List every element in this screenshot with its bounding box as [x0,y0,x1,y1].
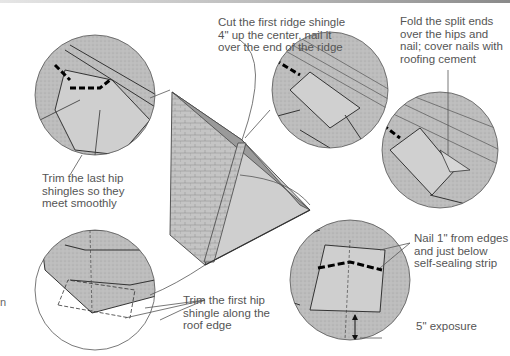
cropped-text-fragment: n [0,296,6,308]
callout-cut-ridge: Cut the first ridge shingle 4" up the ce… [218,16,345,54]
callout-nail: Nail 1" from edges and just below self-s… [414,232,508,270]
callout-trim-last: Trim the last hip shingles so they meet … [42,172,124,210]
detail-circle-fold-split [380,90,500,210]
callout-fold-split: Fold the split ends over the hips and na… [400,15,503,65]
detail-circle-first-hip [30,225,160,355]
detail-circle-last-hip [30,30,165,160]
detail-circle-nail [285,215,415,345]
callout-exposure: 5" exposure [416,320,477,333]
callout-trim-first: Trim the first hip shingle along the roo… [183,294,270,332]
